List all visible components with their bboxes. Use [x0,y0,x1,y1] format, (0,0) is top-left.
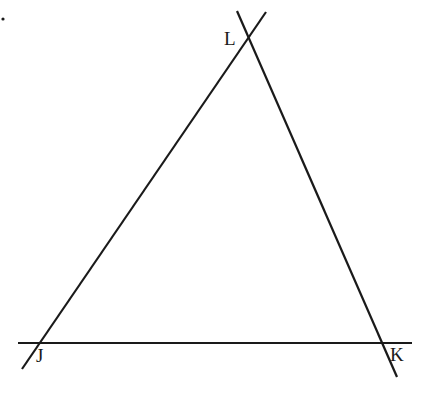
line-lk [237,11,397,377]
triangle-diagram: L J K [0,0,441,396]
marker-dot [1,17,4,20]
vertex-label-l: L [224,28,236,49]
vertex-label-j: J [36,345,43,366]
line-jl [22,12,266,369]
diagram-svg: L J K [0,0,441,396]
vertex-label-k: K [390,344,404,365]
